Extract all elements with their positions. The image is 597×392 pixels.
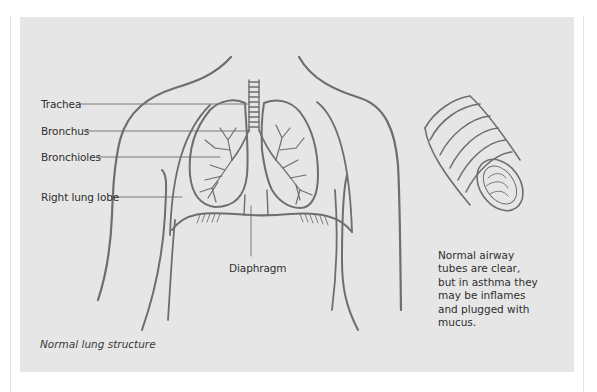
label-trachea: Trachea xyxy=(41,98,81,110)
bronchioles-right xyxy=(200,128,236,202)
mediastinum-line-left xyxy=(244,195,245,215)
label-bronchus: Bronchus xyxy=(41,125,89,137)
left-lung-outline xyxy=(262,100,318,208)
diaphragm-outline xyxy=(172,213,352,232)
bronchus xyxy=(232,130,276,160)
mediastinum-line-right xyxy=(267,190,268,215)
label-right-lung-lobe: Right lung lobe xyxy=(41,191,119,203)
figure-caption: Normal lung structure xyxy=(40,338,156,350)
ribcage-right xyxy=(317,102,352,232)
airway-note: Normal airway tubes are clear, but in as… xyxy=(438,249,538,329)
right-arm-inner-2 xyxy=(332,190,337,310)
bronchioles-left xyxy=(276,125,312,204)
label-diaphragm: Diaphragm xyxy=(229,262,287,274)
trachea xyxy=(249,80,259,130)
torso-right-outline xyxy=(299,57,401,310)
left-arm-inner xyxy=(142,170,166,330)
airway-tube xyxy=(425,96,532,219)
label-bronchioles: Bronchioles xyxy=(41,151,101,163)
right-lung-outline xyxy=(190,100,248,207)
left-torso-side xyxy=(168,220,175,320)
